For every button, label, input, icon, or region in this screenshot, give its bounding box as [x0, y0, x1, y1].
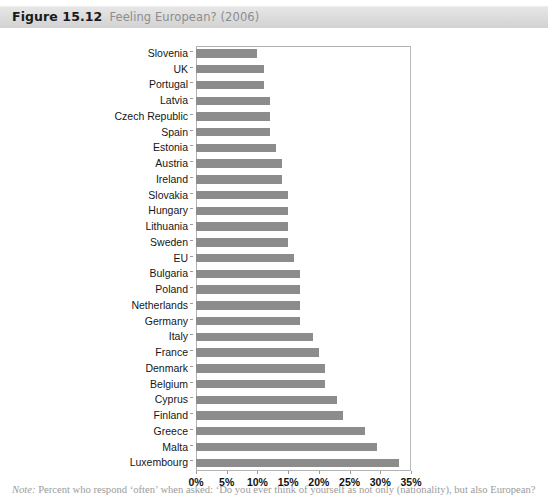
y-axis-tick-label: Malta: [162, 440, 188, 455]
y-axis-tick-mark: [190, 397, 193, 398]
y-axis-tick-label: Slovenia: [148, 46, 188, 61]
figure-title: Feeling European? (2006): [109, 10, 259, 24]
bars-container: [196, 46, 411, 471]
y-axis-tick-label: Hungary: [148, 203, 188, 218]
bar: [196, 81, 264, 89]
bar-row: [196, 266, 411, 281]
y-axis-tick-label: Luxembourg: [130, 455, 188, 470]
y-axis-tick-label: Ireland: [156, 172, 188, 187]
bar-row: [196, 455, 411, 470]
note-text: Percent who respond ‘often’ when asked: …: [38, 484, 535, 495]
y-axis-tick-label: Austria: [155, 156, 188, 171]
y-axis-tick-mark: [190, 145, 193, 146]
y-axis-tick-label: UK: [173, 62, 188, 77]
bar-row: [196, 219, 411, 234]
y-axis-tick-label: Bulgaria: [149, 266, 188, 281]
y-axis-tick-label: Finland: [154, 408, 188, 423]
y-axis-tick-mark: [190, 240, 193, 241]
bar-row: [196, 188, 411, 203]
bar-row: [196, 424, 411, 439]
x-axis-tick-mark: [319, 471, 320, 474]
y-axis-tick-mark: [190, 51, 193, 52]
y-axis-tick-mark: [190, 67, 193, 68]
y-axis-tick-mark: [190, 208, 193, 209]
bar: [196, 411, 343, 419]
y-axis-tick-label: Latvia: [160, 93, 188, 108]
y-axis-labels: SloveniaUKPortugalLatviaCzech RepublicSp…: [0, 46, 193, 471]
y-axis-tick-mark: [190, 382, 193, 383]
y-axis-tick-mark: [190, 193, 193, 194]
y-axis-tick-label: Sweden: [150, 235, 188, 250]
y-axis-tick-mark: [190, 271, 193, 272]
bar: [196, 49, 257, 57]
y-axis-tick-label: EU: [173, 251, 188, 266]
bar-row: [196, 345, 411, 360]
bar-row: [196, 93, 411, 108]
y-axis-tick-mark: [190, 287, 193, 288]
bar: [196, 207, 288, 215]
y-axis-tick-mark: [190, 114, 193, 115]
y-axis-tick-mark: [190, 98, 193, 99]
y-axis-tick-mark: [190, 429, 193, 430]
bar: [196, 364, 325, 372]
bar: [196, 317, 300, 325]
y-axis-tick-mark: [190, 413, 193, 414]
bar-row: [196, 203, 411, 218]
bar-row: [196, 440, 411, 455]
y-axis-tick-label: Poland: [155, 282, 188, 297]
x-axis-tick-mark: [257, 471, 258, 474]
bar-row: [196, 361, 411, 376]
y-axis-tick-label: Germany: [145, 314, 188, 329]
x-axis-tick-mark: [411, 471, 412, 474]
bar-row: [196, 298, 411, 313]
bar: [196, 128, 270, 136]
bar: [196, 254, 294, 262]
bar-row: [196, 408, 411, 423]
figure-number: Figure 15.12: [12, 9, 102, 24]
x-axis-tick-mark: [196, 471, 197, 474]
bar: [196, 159, 282, 167]
y-axis-tick-mark: [190, 334, 193, 335]
y-axis-tick-label: Estonia: [153, 140, 188, 155]
y-axis-tick-mark: [190, 130, 193, 131]
y-axis-tick-label: Italy: [169, 329, 188, 344]
y-axis-tick-label: Belgium: [150, 377, 188, 392]
bar: [196, 65, 264, 73]
y-axis-tick-label: Lithuania: [145, 219, 188, 234]
bar: [196, 427, 365, 435]
bar-row: [196, 125, 411, 140]
bar-row: [196, 62, 411, 77]
bar-row: [196, 329, 411, 344]
bar-row: [196, 77, 411, 92]
bar: [196, 348, 319, 356]
y-axis-tick-label: Denmark: [145, 361, 188, 376]
bar-row: [196, 156, 411, 171]
bar: [196, 333, 313, 341]
y-axis-tick-mark: [190, 256, 193, 257]
y-axis-tick-mark: [190, 366, 193, 367]
y-axis-tick-mark: [190, 82, 193, 83]
bar: [196, 191, 288, 199]
y-axis-tick-mark: [190, 161, 193, 162]
y-axis-tick-label: Spain: [161, 125, 188, 140]
figure-header-inner: Figure 15.12 Feeling European? (2006): [12, 9, 259, 24]
x-axis-tick-mark: [227, 471, 228, 474]
y-axis-tick-mark: [190, 303, 193, 304]
bar-row: [196, 46, 411, 61]
bar: [196, 459, 399, 467]
bar-row: [196, 172, 411, 187]
y-axis-tick-label: France: [155, 345, 188, 360]
bar: [196, 238, 288, 246]
bar: [196, 443, 377, 451]
y-axis-tick-mark: [190, 319, 193, 320]
y-axis-tick-label: Portugal: [149, 77, 188, 92]
bar: [196, 380, 325, 388]
bar: [196, 175, 282, 183]
bar-row: [196, 251, 411, 266]
bar-row: [196, 377, 411, 392]
bar: [196, 112, 270, 120]
bar-row: [196, 282, 411, 297]
bar-row: [196, 140, 411, 155]
bar: [196, 285, 300, 293]
y-axis-tick-mark: [190, 445, 193, 446]
